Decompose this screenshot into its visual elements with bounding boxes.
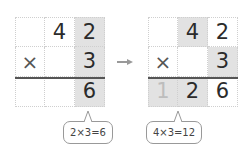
cell: [148, 17, 178, 47]
cell: 6: [208, 77, 238, 107]
cell: [15, 77, 45, 107]
cell: 2: [178, 77, 208, 107]
times-sign: ×: [148, 47, 178, 77]
callout-tail-icon: [83, 110, 93, 122]
callout-bubble: 2×3=6: [63, 121, 113, 144]
cell: 3: [208, 47, 238, 77]
times-sign: ×: [15, 47, 45, 77]
arrow-right-icon: [117, 59, 133, 65]
cell: 4: [178, 17, 208, 47]
cell: 4: [45, 17, 75, 47]
right-multiplication-grid: 4 2 × 3 1 2 6: [148, 17, 238, 107]
callout-bubble: 4×3=12: [146, 121, 202, 144]
cell: [178, 47, 208, 77]
cell: 2: [75, 17, 105, 47]
cell: 3: [75, 47, 105, 77]
result-rule: [148, 77, 238, 79]
callout-tail-icon: [173, 110, 183, 122]
cell: [15, 17, 45, 47]
cell: [45, 77, 75, 107]
cell: 6: [75, 77, 105, 107]
left-multiplication-grid: 4 2 × 3 6: [15, 17, 105, 107]
cell: 1: [148, 77, 178, 107]
cell: [45, 47, 75, 77]
result-rule: [15, 77, 105, 79]
cell: 2: [208, 17, 238, 47]
